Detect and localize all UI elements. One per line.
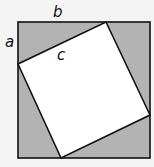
label-b: b [53,3,63,21]
pythagoras-diagram: b a c [0,0,154,167]
label-a: a [5,33,14,51]
label-c: c [57,46,66,64]
